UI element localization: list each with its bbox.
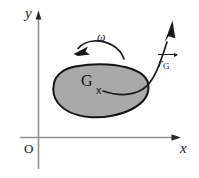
vector-overarrow-icon	[158, 54, 177, 55]
angular-velocity-arrowhead	[74, 47, 91, 57]
figure-canvas: y x O ω G x rG	[0, 0, 199, 178]
centroid-point-marker: x	[96, 85, 102, 96]
angular-velocity-label: ω	[97, 31, 105, 43]
y-axis-label: y	[25, 6, 32, 21]
origin-label: O	[24, 142, 33, 155]
position-vector-arrowhead	[165, 21, 176, 43]
x-axis-label: x	[180, 141, 187, 156]
centroid-label: G	[81, 73, 93, 89]
y-axis-arrowhead	[36, 11, 42, 20]
position-vector-label: rG	[158, 54, 177, 71]
vector-symbol-text: rG	[158, 56, 177, 71]
vector-subscript: G	[163, 61, 170, 71]
